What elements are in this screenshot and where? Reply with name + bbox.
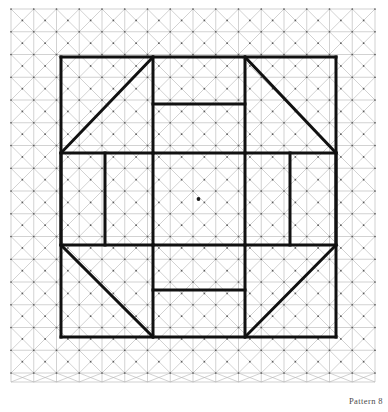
grid-vertex-dot: [124, 122, 126, 124]
grid-center-dot: [340, 88, 342, 90]
grid-center-dot: [363, 270, 365, 272]
grid-center-dot: [44, 156, 46, 158]
grid-center-dot: [158, 133, 160, 135]
grid-center-dot: [295, 247, 297, 249]
grid-vertex-dot: [147, 54, 149, 56]
grid-vertex-dot: [10, 122, 12, 124]
grid-vertex-dot: [169, 372, 171, 374]
grid-vertex-dot: [215, 31, 217, 33]
grid-vertex-dot: [215, 54, 217, 56]
grid-center-dot: [44, 247, 46, 249]
grid-center-dot: [272, 133, 274, 135]
grid-center-dot: [44, 111, 46, 113]
grid-vertex-dot: [306, 349, 308, 351]
grid-vertex-dot: [215, 213, 217, 215]
grid-vertex-dot: [374, 213, 376, 215]
grid-center-dot: [22, 88, 24, 90]
grid-vertex-dot: [351, 54, 353, 56]
grid-center-dot: [22, 202, 24, 204]
grid-vertex-dot: [306, 304, 308, 306]
grid-vertex-dot: [260, 31, 262, 33]
grid-center-dot: [226, 20, 228, 22]
grid-vertex-dot: [10, 236, 12, 238]
grid-center-dot: [22, 270, 24, 272]
grid-vertex-dot: [238, 304, 240, 306]
grid-center-dot: [44, 42, 46, 44]
grid-vertex-dot: [124, 31, 126, 33]
grid-center-dot: [226, 315, 228, 317]
grid-center-dot: [44, 361, 46, 363]
grid-vertex-dot: [215, 349, 217, 351]
grid-center-dot: [22, 111, 24, 113]
grid-center-dot: [181, 111, 183, 113]
grid-vertex-dot: [306, 213, 308, 215]
grid-center-dot: [181, 224, 183, 226]
grid-vertex-dot: [283, 54, 285, 56]
grid-vertex-dot: [101, 281, 103, 283]
grid-center-dot: [135, 88, 137, 90]
grid-center-dot: [22, 65, 24, 67]
grid-vertex-dot: [283, 167, 285, 169]
grid-center-dot: [158, 247, 160, 249]
grid-vertex-dot: [169, 327, 171, 329]
grid-center-dot: [272, 156, 274, 158]
grid-vertex-dot: [374, 281, 376, 283]
grid-vertex-dot: [306, 167, 308, 169]
grid-vertex-dot: [329, 54, 331, 56]
grid-vertex-dot: [329, 122, 331, 124]
grid-vertex-dot: [260, 167, 262, 169]
grid-vertex-dot: [283, 258, 285, 260]
grid-vertex-dot: [238, 54, 240, 56]
grid-center-dot: [317, 88, 319, 90]
grid-center-dot: [67, 42, 69, 44]
grid-center-dot: [113, 156, 115, 158]
grid-vertex-dot: [78, 167, 80, 169]
grid-vertex-dot: [78, 281, 80, 283]
grid-vertex-dot: [374, 236, 376, 238]
grid-center-dot: [340, 224, 342, 226]
grid-vertex-dot: [351, 31, 353, 33]
grid-center-dot: [90, 133, 92, 135]
grid-center-dot: [90, 224, 92, 226]
grid-center-dot: [67, 65, 69, 67]
grid-center-dot: [204, 156, 206, 158]
grid-center-dot: [363, 42, 365, 44]
grid-vertex-dot: [10, 213, 12, 215]
grid-center-dot: [67, 293, 69, 295]
grid-vertex-dot: [260, 258, 262, 260]
grid-vertex-dot: [10, 190, 12, 192]
grid-center-dot: [135, 202, 137, 204]
grid-center-dot: [317, 315, 319, 317]
grid-center-dot: [90, 293, 92, 295]
grid-vertex-dot: [147, 145, 149, 147]
grid-vertex-dot: [101, 236, 103, 238]
grid-vertex-dot: [124, 8, 126, 10]
grid-vertex-dot: [169, 145, 171, 147]
grid-vertex-dot: [238, 122, 240, 124]
grid-vertex-dot: [56, 281, 58, 283]
grid-vertex-dot: [169, 99, 171, 101]
grid-vertex-dot: [306, 372, 308, 374]
grid-center-dot: [249, 224, 251, 226]
grid-vertex-dot: [78, 213, 80, 215]
grid-vertex-dot: [260, 8, 262, 10]
grid-vertex-dot: [260, 349, 262, 351]
grid-vertex-dot: [238, 258, 240, 260]
grid-vertex-dot: [78, 76, 80, 78]
grid-vertex-dot: [351, 190, 353, 192]
grid-vertex-dot: [283, 372, 285, 374]
grid-center-dot: [204, 315, 206, 317]
grid-vertex-dot: [329, 190, 331, 192]
grid-vertex-dot: [192, 236, 194, 238]
grid-vertex-dot: [33, 349, 35, 351]
grid-vertex-dot: [56, 145, 58, 147]
grid-vertex-dot: [374, 76, 376, 78]
grid-center-dot: [226, 133, 228, 135]
grid-vertex-dot: [10, 76, 12, 78]
grid-vertex-dot: [306, 76, 308, 78]
grid-vertex-dot: [147, 99, 149, 101]
grid-vertex-dot: [169, 349, 171, 351]
grid-vertex-dot: [124, 281, 126, 283]
grid-center-dot: [22, 156, 24, 158]
grid-vertex-dot: [33, 76, 35, 78]
